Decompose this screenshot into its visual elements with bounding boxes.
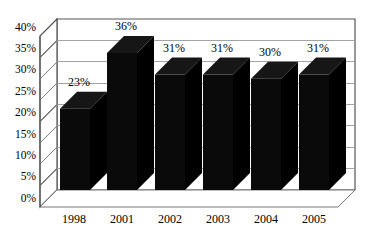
x-tick-label: 2005 <box>302 212 326 226</box>
y-tick-label: 10% <box>15 149 37 161</box>
data-label: 23% <box>68 75 90 89</box>
x-tick-label: 2002 <box>158 212 182 226</box>
bar-1998 <box>60 92 107 190</box>
x-tick-label: 2003 <box>206 212 230 226</box>
y-tick-label: 5% <box>21 170 37 182</box>
y-axis-tick-labels: 40% 35% 30% 25% 20% 15% 10% 5% 0% <box>15 21 37 204</box>
x-tick-label: 2001 <box>110 212 134 226</box>
bar-2003 <box>203 58 250 191</box>
data-label: 31% <box>163 41 185 55</box>
y-tick-label: 20% <box>15 106 37 118</box>
x-axis-category-labels: 1998 2001 2002 2003 2004 2005 <box>62 212 326 226</box>
bar-2002 <box>155 58 202 191</box>
bar-2005 <box>299 58 346 191</box>
y-tick-label: 25% <box>15 85 37 97</box>
data-label: 31% <box>211 41 233 55</box>
y-tick-label: 40% <box>15 21 37 33</box>
plot-floor <box>40 190 355 207</box>
y-tick-label: 15% <box>15 128 37 140</box>
bar-chart: 40% 35% 30% 25% 20% 15% 10% 5% 0% 1998 2… <box>0 0 373 239</box>
y-tick-label: 35% <box>15 42 37 54</box>
y-tick-label: 0% <box>21 192 37 204</box>
x-tick-label: 1998 <box>62 212 86 226</box>
data-label: 30% <box>259 45 281 59</box>
bar-2004 <box>251 62 298 190</box>
chart-canvas: 40% 35% 30% 25% 20% 15% 10% 5% 0% 1998 2… <box>0 0 373 239</box>
data-label: 36% <box>115 19 137 33</box>
data-label: 31% <box>307 41 329 55</box>
x-tick-label: 2004 <box>254 212 278 226</box>
y-tick-label: 30% <box>15 63 37 75</box>
bar-2001 <box>107 36 154 190</box>
